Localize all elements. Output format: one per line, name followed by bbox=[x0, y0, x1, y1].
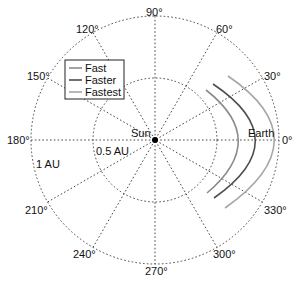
angle-label-120: 120° bbox=[76, 23, 99, 35]
radius-label-outer: 1 AU bbox=[36, 158, 60, 170]
legend: Fast Faster Fastest bbox=[65, 60, 124, 99]
sun-label: Sun bbox=[131, 127, 151, 139]
angle-label-300: 300° bbox=[213, 248, 236, 260]
polar-chart: 0° 30° 60° 90° 120° 150° 180° 210° 240° … bbox=[0, 0, 297, 283]
angle-label-150: 150° bbox=[27, 70, 50, 82]
angle-label-210: 210° bbox=[25, 204, 48, 216]
svg-text:Faster: Faster bbox=[85, 74, 117, 86]
earth-label: Earth bbox=[248, 127, 274, 139]
curve-fast bbox=[206, 90, 238, 193]
series-curves bbox=[206, 76, 274, 208]
radius-label-inner: 0.5 AU bbox=[96, 145, 129, 157]
svg-text:Fastest: Fastest bbox=[85, 86, 121, 98]
angle-label-330: 330° bbox=[264, 204, 287, 216]
angle-label-30: 30° bbox=[264, 70, 281, 82]
angle-label-270: 270° bbox=[145, 265, 168, 277]
sun-marker bbox=[152, 137, 158, 143]
angle-label-90: 90° bbox=[146, 6, 163, 18]
svg-text:Fast: Fast bbox=[85, 62, 106, 74]
angle-label-60: 60° bbox=[216, 23, 233, 35]
angle-label-0: 0° bbox=[282, 134, 293, 146]
angle-label-180: 180° bbox=[7, 134, 30, 146]
angle-label-240: 240° bbox=[73, 248, 96, 260]
